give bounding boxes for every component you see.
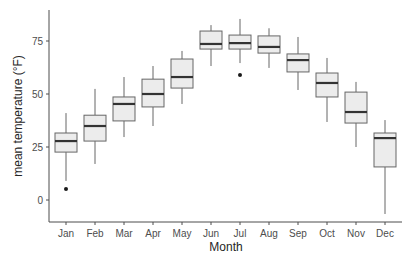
y-tick-label: 75 [32,36,44,47]
box-iqr [258,36,280,53]
boxplot-chart: 0255075 JanFebMarAprMayJunJulAugSepOctNo… [0,0,420,267]
box-iqr [200,31,222,49]
x-tick-label-mar: Mar [115,228,133,239]
x-tick-label-oct: Oct [319,228,335,239]
x-tick-label-apr: Apr [145,228,161,239]
box-aug [258,28,280,68]
x-tick-label-feb: Feb [86,228,104,239]
box-sep [287,37,309,90]
box-apr [142,66,164,126]
box-iqr [287,54,309,72]
y-axis-ticks: 0255075 [32,36,49,206]
box-feb [84,89,106,164]
box-jun [200,25,222,66]
x-axis-ticks: JanFebMarAprMayJunJulAugSepOctNovDec [58,222,394,239]
box-series [55,19,396,214]
x-tick-label-may: May [173,228,192,239]
y-tick-label: 50 [32,89,44,100]
x-tick-label-jul: Jul [234,228,247,239]
box-nov [345,82,367,147]
box-iqr [345,92,367,123]
x-tick-label-dec: Dec [376,228,394,239]
x-tick-label-jan: Jan [58,228,74,239]
outlier-point [64,187,68,191]
x-tick-label-aug: Aug [260,228,278,239]
y-tick-label: 0 [37,195,43,206]
x-tick-label-nov: Nov [347,228,365,239]
box-may [171,51,193,104]
box-iqr [55,133,77,152]
x-axis-title: Month [209,240,242,254]
box-iqr [316,73,338,97]
box-iqr [171,59,193,88]
box-dec [374,120,396,214]
box-jan [55,113,77,191]
box-oct [316,58,338,122]
x-tick-label-sep: Sep [289,228,307,239]
box-mar [113,77,135,137]
y-axis-title: mean temperature (°F) [11,55,25,177]
outlier-point [238,73,242,77]
box-iqr [113,97,135,121]
box-jul [229,19,251,77]
y-tick-label: 25 [32,142,44,153]
box-iqr [84,115,106,141]
x-tick-label-jun: Jun [203,228,219,239]
